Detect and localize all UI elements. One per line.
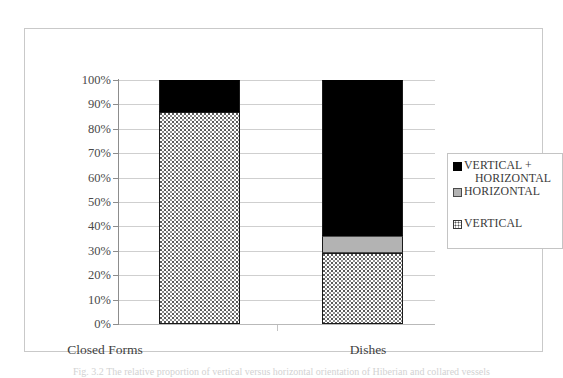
legend-label-vertical-horizontal: VERTICAL + HORIZONTAL xyxy=(464,159,551,184)
legend-item-vertical[interactable]: VERTICAL xyxy=(453,217,558,230)
figure-caption: Fig. 3.2 The relative proportion of vert… xyxy=(0,366,563,377)
y-axis-tick-label: 30% xyxy=(51,245,111,258)
dotted-square-icon xyxy=(453,220,462,229)
legend-label-line1: VERTICAL + xyxy=(464,158,532,172)
y-axis-tick-label: 80% xyxy=(51,123,111,136)
y-axis-tick-label: 10% xyxy=(51,294,111,307)
bar-dishes[interactable] xyxy=(322,80,403,324)
black-square-icon xyxy=(453,162,462,171)
segment-vertical-dishes[interactable] xyxy=(322,253,403,324)
gridline xyxy=(119,324,435,325)
y-axis-tick xyxy=(113,324,119,325)
legend-label-line2: HORIZONTAL xyxy=(464,172,551,185)
y-axis-tick-label: 0% xyxy=(51,318,111,331)
y-axis-tick-label: 100% xyxy=(51,74,111,87)
y-axis-tick-label: 40% xyxy=(51,220,111,233)
y-axis-tick-label: 20% xyxy=(51,269,111,282)
segment-vertical-closed-forms[interactable] xyxy=(159,112,240,324)
segment-horizontal-dishes[interactable] xyxy=(322,236,403,253)
gray-square-icon xyxy=(453,188,462,197)
y-axis-tick-labels: 100%90%80%70%60%50%40%30%20%10%0% xyxy=(45,29,111,378)
plot-area xyxy=(119,80,435,324)
chart-legend: VERTICAL + HORIZONTAL HORIZONTAL VERTICA… xyxy=(447,153,563,249)
y-axis-tick-label: 70% xyxy=(51,147,111,160)
legend-item-vertical-horizontal[interactable]: VERTICAL + HORIZONTAL xyxy=(453,159,558,184)
legend-label-horizontal: HORIZONTAL xyxy=(464,185,540,198)
segment-vertical-horizontal-dishes[interactable] xyxy=(322,80,403,236)
y-axis-tick-label: 60% xyxy=(51,172,111,185)
bar-closed-forms[interactable] xyxy=(159,80,240,324)
segment-vertical-horizontal-closed-forms[interactable] xyxy=(159,80,240,112)
legend-label-vertical: VERTICAL xyxy=(464,217,522,230)
figure-frame: 100%90%80%70%60%50%40%30%20%10%0% Closed… xyxy=(24,28,543,352)
legend-item-horizontal[interactable]: HORIZONTAL xyxy=(453,185,558,198)
y-axis-tick-label: 90% xyxy=(51,98,111,111)
y-axis-tick-label: 50% xyxy=(51,196,111,209)
x-axis-label-closed-forms: Closed Forms xyxy=(20,342,190,358)
x-axis-label-dishes: Dishes xyxy=(283,342,453,358)
category-divider-tick xyxy=(277,325,278,331)
